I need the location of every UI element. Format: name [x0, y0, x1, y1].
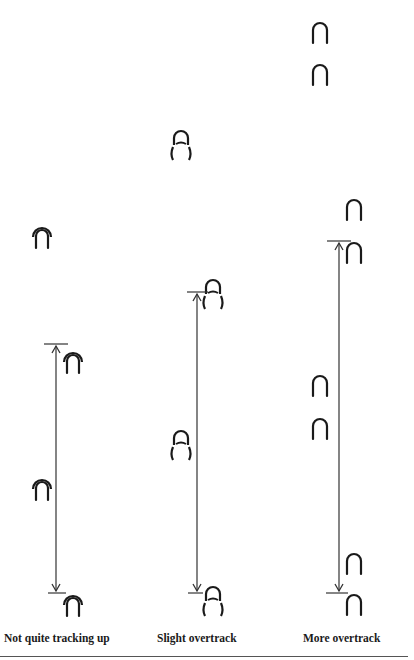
hoofprint-icon	[313, 376, 327, 396]
column-more-overtrack	[313, 23, 361, 615]
hoof-heel-line	[176, 443, 186, 445]
hoofprint-icon	[313, 65, 327, 85]
bottom-rule	[0, 656, 408, 657]
caption-slight-overtrack: Slight overtrack	[157, 632, 237, 644]
front-hoofprint-right-icon	[189, 447, 191, 460]
hoofprint-diagram	[0, 0, 414, 660]
caption-more-overtrack: More overtrack	[303, 632, 380, 644]
hind-hoofprint-icon	[36, 230, 48, 248]
hoofprint-icon	[347, 595, 361, 615]
diagram-canvas: Not quite tracking up Slight overtrack M…	[0, 0, 414, 660]
hoofprint-icon	[347, 200, 361, 220]
hind-hoofprint-icon	[67, 355, 79, 373]
front-hoofprint-left-icon	[204, 603, 206, 616]
hind-hoofprint-icon	[36, 482, 48, 500]
hoofprint-icon	[313, 23, 327, 43]
hind-hoofprint-icon	[67, 598, 79, 616]
column-not-quite-tracking-up	[33, 228, 82, 616]
caption-not-quite-tracking-up: Not quite tracking up	[4, 632, 110, 644]
hoof-heel-line	[176, 143, 186, 145]
hoofprint-icon	[347, 243, 361, 263]
front-hoofprint-left-icon	[204, 296, 206, 309]
front-hoofprint-right-icon	[189, 147, 191, 160]
front-hoofprint-left-icon	[172, 447, 174, 460]
hoof-heel-line	[208, 292, 218, 294]
hoofprint-icon	[347, 554, 361, 574]
front-hoofprint-left-icon	[172, 147, 174, 160]
front-hoofprint-right-icon	[221, 296, 223, 309]
hoof-heel-line	[208, 599, 218, 601]
hoofprint-icon	[313, 419, 327, 439]
front-hoofprint-right-icon	[221, 603, 223, 616]
column-slight-overtrack	[172, 131, 223, 616]
